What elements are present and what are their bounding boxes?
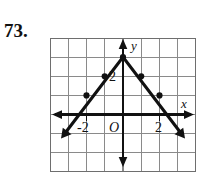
figure-page: 73. [0, 0, 222, 189]
problem-number: 73. [4, 20, 28, 42]
point-neg1-2 [102, 73, 108, 79]
point-neg2-1 [83, 92, 89, 98]
point-2-1 [156, 92, 162, 98]
origin-label: O [109, 120, 119, 135]
graph-svg: y x O -2 2 2 [50, 38, 196, 172]
point-1-2 [138, 73, 144, 79]
coordinate-graph-figure: y x O -2 2 2 [50, 38, 196, 172]
x-axis-label: x [180, 96, 187, 111]
x-tick-label-positive-two: 2 [155, 120, 162, 135]
x-tick-label-negative-two: -2 [77, 120, 89, 135]
y-axis-label: y [129, 38, 137, 53]
point-0-3 [120, 54, 126, 60]
y-tick-label-positive-two: 2 [109, 69, 116, 84]
